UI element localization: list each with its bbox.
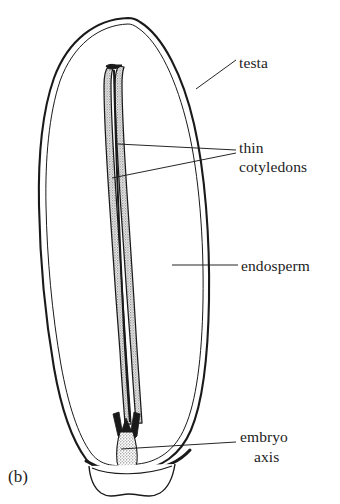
label-cotyledons: cotyledons bbox=[239, 157, 307, 176]
seed-diagram bbox=[0, 0, 340, 504]
label-testa: testa bbox=[239, 53, 268, 72]
figure-root: testa thin cotyledons endosperm embryo a… bbox=[0, 0, 340, 504]
leader-testa bbox=[196, 60, 236, 89]
label-endosperm: endosperm bbox=[241, 256, 310, 275]
label-axis: axis bbox=[254, 447, 279, 466]
label-embryo: embryo bbox=[240, 427, 288, 446]
label-thin: thin bbox=[239, 138, 264, 157]
figure-caption: (b) bbox=[8, 467, 28, 486]
